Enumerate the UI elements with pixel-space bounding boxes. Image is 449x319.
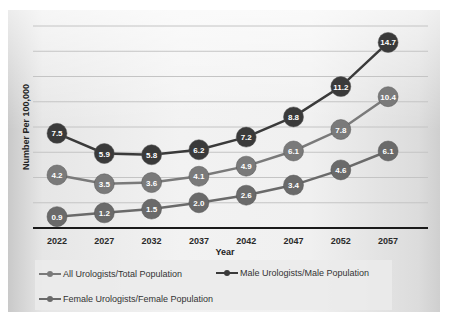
data-label: 2.6 <box>241 191 253 200</box>
data-label: 4.1 <box>193 172 205 181</box>
data-label: 5.9 <box>99 150 111 159</box>
legend-item-male: Male Urologists/Male Population <box>216 268 369 278</box>
x-tick-label: 2047 <box>283 236 303 246</box>
x-tick-label: 2042 <box>236 236 256 246</box>
legend-label: All Urologists/Total Population <box>63 269 182 279</box>
series-markers: 7.55.95.86.27.28.811.214.7 <box>47 32 398 164</box>
legend-item-all: All Urologists/Total Population <box>39 269 182 279</box>
legend-item-female: Female Urologists/Female Population <box>39 294 213 304</box>
x-tick-label: 2057 <box>378 236 398 246</box>
data-label: 6.2 <box>193 146 205 155</box>
data-label: 11.2 <box>333 83 349 92</box>
data-label: 4.9 <box>241 162 253 171</box>
data-label: 3.4 <box>288 181 300 190</box>
legend-line-icon <box>216 272 238 274</box>
legend-line-icon <box>39 273 61 275</box>
legend-line-icon <box>39 298 61 300</box>
data-label: 10.4 <box>380 93 396 102</box>
data-label: 8.8 <box>288 113 300 122</box>
x-tick-label: 2022 <box>47 236 67 246</box>
x-tick-label: 2027 <box>94 236 114 246</box>
x-tick-label: 2052 <box>331 236 351 246</box>
data-label: 0.9 <box>51 213 63 222</box>
data-label: 7.2 <box>241 133 253 142</box>
x-tick-label: 2037 <box>189 236 209 246</box>
chart-legend: All Urologists/Total Population Male Uro… <box>35 260 392 310</box>
gridlines <box>33 26 428 203</box>
data-label: 1.5 <box>146 205 158 214</box>
data-label: 1.2 <box>99 209 111 218</box>
x-axis-title: Year <box>200 247 250 257</box>
data-label: 6.1 <box>288 147 300 156</box>
x-tick-label: 2032 <box>142 236 162 246</box>
data-label: 5.8 <box>146 151 158 160</box>
legend-label: Female Urologists/Female Population <box>63 294 213 304</box>
data-label: 6.1 <box>383 147 395 156</box>
y-axis-title: Number Per 100,000 <box>21 67 35 187</box>
legend-label: Male Urologists/Male Population <box>240 268 369 278</box>
data-label: 2.0 <box>193 199 205 208</box>
data-label: 14.7 <box>380 38 396 47</box>
data-label: 7.5 <box>51 129 63 138</box>
data-label: 3.5 <box>99 180 111 189</box>
data-label: 3.6 <box>146 179 158 188</box>
data-label: 4.6 <box>335 166 347 175</box>
data-label: 7.8 <box>335 126 347 135</box>
data-label: 4.2 <box>51 171 63 180</box>
